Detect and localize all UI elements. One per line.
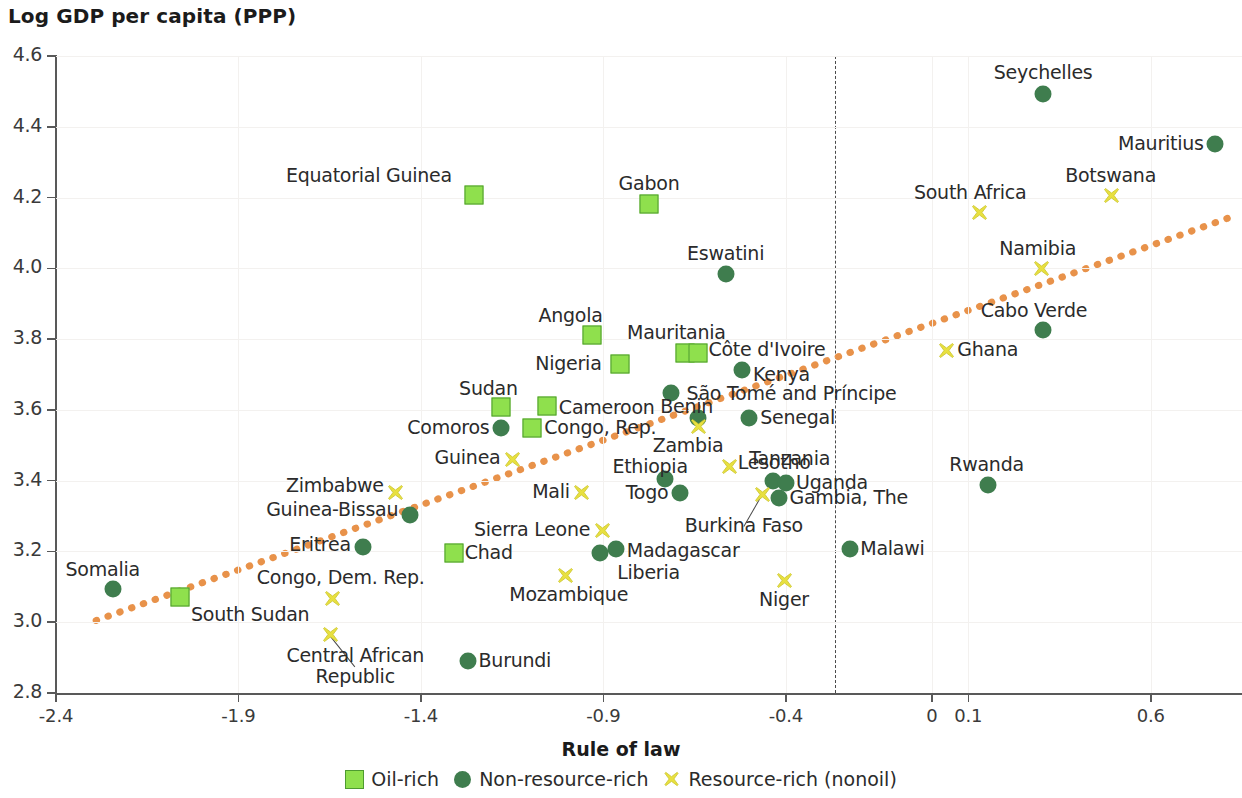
data-point-square[interactable]	[444, 543, 463, 562]
x-axis-tick	[968, 693, 970, 702]
x-axis-tick	[931, 693, 933, 702]
data-point-label: Sudan	[459, 379, 518, 399]
data-point-cross[interactable]	[720, 456, 739, 475]
data-point-circle[interactable]	[841, 540, 858, 557]
y-axis-tick-label: 3.0	[0, 609, 42, 631]
legend-item[interactable]: Oil-rich	[345, 768, 439, 790]
data-point-circle[interactable]	[401, 507, 418, 524]
data-point-square[interactable]	[523, 419, 542, 438]
y-axis-tick-label: 2.8	[0, 680, 42, 702]
data-point-label: Eritrea	[289, 535, 351, 555]
data-point-circle[interactable]	[104, 580, 121, 597]
data-point-label: Madagascar	[627, 541, 740, 561]
data-point-square[interactable]	[492, 398, 511, 417]
gridline-vertical	[968, 56, 969, 693]
data-point-circle[interactable]	[608, 540, 625, 557]
data-point-cross[interactable]	[1101, 185, 1120, 204]
data-point-cross[interactable]	[775, 571, 794, 590]
data-point-cross[interactable]	[320, 625, 339, 644]
data-point-circle[interactable]	[1206, 135, 1223, 152]
y-axis-tick	[47, 197, 56, 199]
data-point-label: Congo, Rep.	[544, 418, 656, 438]
x-axis-tick	[785, 693, 787, 702]
x-axis-line	[55, 693, 1242, 695]
zero-reference-line	[835, 56, 836, 693]
gridline-vertical	[238, 56, 239, 693]
legend-label: Resource-rich (nonoil)	[688, 768, 896, 790]
data-point-square[interactable]	[464, 185, 483, 204]
legend-item[interactable]: Non-resource-rich	[453, 768, 648, 790]
legend-circle-icon	[453, 770, 472, 789]
data-point-cross[interactable]	[503, 449, 522, 468]
data-point-label: Sierra Leone	[474, 520, 590, 540]
data-point-label: Eswatini	[687, 244, 764, 264]
x-axis-tick-label: -1.9	[178, 705, 298, 726]
data-point-label: Nigeria	[535, 354, 601, 374]
data-point-label: Ethiopia	[612, 457, 687, 477]
y-axis-tick-label: 4.0	[0, 255, 42, 277]
data-point-circle[interactable]	[591, 544, 608, 561]
data-point-label: Guinea	[435, 448, 501, 468]
data-point-label: Comoros	[407, 418, 489, 438]
data-point-cross[interactable]	[322, 589, 341, 608]
data-point-label: Namibia	[999, 239, 1076, 259]
data-point-circle[interactable]	[980, 476, 997, 493]
data-point-label: São Tomé and Príncipe	[687, 384, 897, 404]
data-point-cross[interactable]	[386, 482, 405, 501]
data-point-cross[interactable]	[556, 565, 575, 584]
data-point-label: Angola	[538, 306, 602, 326]
data-point-square[interactable]	[640, 194, 659, 213]
data-point-label: Burkina Faso	[685, 516, 803, 536]
data-point-label: South Africa	[914, 183, 1026, 203]
data-point-circle[interactable]	[493, 420, 510, 437]
plot-area	[56, 56, 1242, 693]
data-point-label: Zimbabwe	[286, 476, 384, 496]
data-point-cross[interactable]	[937, 340, 956, 359]
y-axis-tick	[47, 55, 56, 57]
data-point-label: Mali	[532, 482, 570, 502]
data-point-cross[interactable]	[572, 482, 591, 501]
data-point-label: Mauritius	[1118, 134, 1204, 154]
y-axis-tick	[47, 480, 56, 482]
data-point-label: Guinea-Bissau	[266, 500, 398, 520]
data-point-circle[interactable]	[741, 409, 758, 426]
y-axis-title: Log GDP per capita (PPP)	[8, 4, 296, 28]
data-point-label: Gambia, The	[789, 488, 908, 508]
data-point-circle[interactable]	[354, 539, 371, 556]
data-point-circle[interactable]	[734, 362, 751, 379]
y-axis-tick-label: 4.4	[0, 114, 42, 136]
legend-label: Non-resource-rich	[479, 768, 648, 790]
data-point-label: Central AfricanRepublic	[286, 646, 424, 687]
legend-square-icon	[345, 770, 364, 789]
data-point-circle[interactable]	[1035, 322, 1052, 339]
x-axis-tick-label: -2.4	[0, 705, 116, 726]
data-point-square[interactable]	[171, 587, 190, 606]
x-axis-tick-label: 0.1	[908, 705, 1028, 726]
data-point-square[interactable]	[689, 343, 708, 362]
data-point-square[interactable]	[583, 325, 602, 344]
x-axis-tick	[1150, 693, 1152, 702]
legend-label: Oil-rich	[371, 768, 439, 790]
data-point-cross[interactable]	[592, 521, 611, 540]
data-point-circle[interactable]	[717, 265, 734, 282]
data-point-cross[interactable]	[1032, 259, 1051, 278]
data-point-label: Mozambique	[509, 585, 628, 605]
data-point-square[interactable]	[537, 397, 556, 416]
data-point-circle[interactable]	[460, 653, 477, 670]
data-point-cross[interactable]	[970, 202, 989, 221]
data-point-square[interactable]	[610, 354, 629, 373]
data-point-label: Niger	[759, 590, 809, 610]
data-point-label: Burundi	[479, 651, 552, 671]
y-axis-tick-label: 4.6	[0, 43, 42, 65]
x-axis-tick	[603, 693, 605, 702]
x-axis-title: Rule of law	[0, 738, 1242, 760]
data-point-circle[interactable]	[672, 485, 689, 502]
legend-item[interactable]: Resource-rich (nonoil)	[662, 768, 896, 790]
data-point-circle[interactable]	[1035, 86, 1052, 103]
data-point-cross[interactable]	[753, 485, 772, 504]
x-axis-tick-label: 0.6	[1091, 705, 1211, 726]
data-point-cross[interactable]	[689, 416, 708, 435]
y-axis-tick-label: 3.6	[0, 397, 42, 419]
x-axis-tick	[420, 693, 422, 702]
data-point-label: Gabon	[619, 174, 680, 194]
